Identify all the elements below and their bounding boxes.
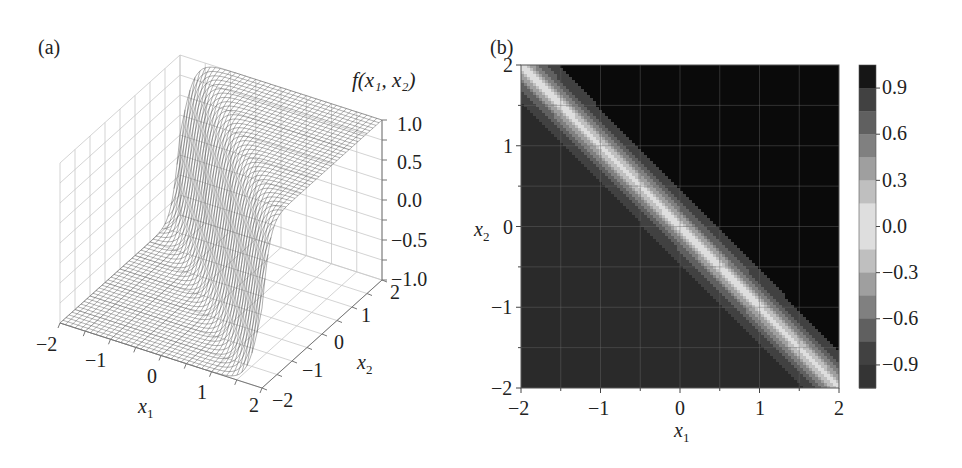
x1-tick-label: −1	[85, 350, 106, 370]
colorbar	[859, 65, 880, 389]
colorbar-tick-label: 0.3	[882, 170, 907, 190]
x2-tick-label: 0	[334, 332, 344, 352]
panel-a-surface-plot: (a) f(x₁, x₂) 1.0 0.5 0.0 −0.5 −1.0 −2 −…	[0, 0, 480, 468]
x1-label-sub: 1	[683, 430, 690, 445]
wireframe-surface	[60, 67, 382, 376]
x2-tick-label: −2	[491, 378, 512, 398]
x1-axis-label: x1	[138, 396, 153, 420]
colorbar-tick-label: −0.6	[882, 308, 918, 328]
colorbar-tick-label: 0.9	[882, 77, 907, 97]
x2-label-main: x	[357, 351, 366, 373]
z-title-args: (x₁, x₂)	[358, 68, 416, 92]
x1-tick-label: 1	[197, 382, 207, 402]
x2-axis-label: x2	[474, 219, 489, 243]
x1-label-sub: 1	[147, 406, 154, 421]
x2-tick-label: 1	[361, 305, 371, 325]
colorbar-tick-label: 0.6	[882, 123, 907, 143]
x1-tick-label: 2	[834, 398, 844, 418]
x2-axis-label: x2	[357, 352, 372, 376]
x2-tick-label: 2	[503, 55, 513, 75]
x1-tick-label: −2	[36, 334, 57, 354]
x1-tick-label: −1	[588, 398, 609, 418]
panel-b-contour-plot: (b) 2 1 0 −1 −2 x2 −2 −1 0 1 2 x1 0.9 0.…	[480, 0, 962, 468]
x2-tick-label: −1	[491, 297, 512, 317]
x2-tick-label: 2	[390, 282, 400, 302]
x2-label-sub: 2	[366, 362, 373, 377]
x2-tick-label: 0	[503, 217, 513, 237]
x1-label-main: x	[138, 395, 147, 417]
x1-tick-label: 1	[755, 398, 765, 418]
colorbar-tick-label: −0.9	[882, 354, 918, 374]
x1-axis-label: x1	[674, 420, 689, 444]
x1-tick-label: 0	[675, 398, 685, 418]
z-axis-title: f(x₁, x₂)	[352, 70, 416, 91]
x2-tick-label: −2	[272, 390, 293, 410]
colorbar-tick-label: 0.0	[882, 216, 907, 236]
x2-label-sub: 2	[483, 229, 490, 244]
x1-tick-label: 0	[147, 366, 157, 386]
x1-label-main: x	[674, 419, 683, 441]
z-tick-label: −0.5	[391, 230, 427, 250]
x1-tick-label: −2	[508, 398, 529, 418]
x2-label-main: x	[474, 218, 483, 240]
x1-tick-label: 2	[249, 395, 259, 415]
z-tick-label: 1.0	[397, 114, 422, 134]
z-tick-label: 0.5	[397, 152, 422, 172]
x2-tick-label: 1	[503, 136, 513, 156]
colorbar-tick-label: −0.3	[882, 262, 918, 282]
z-tick-label: 0.0	[397, 190, 422, 210]
x2-tick-label: −1	[302, 360, 323, 380]
